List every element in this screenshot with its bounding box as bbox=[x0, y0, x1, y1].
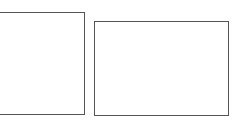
right-rectangle bbox=[94, 21, 229, 116]
left-rectangle bbox=[0, 12, 85, 115]
